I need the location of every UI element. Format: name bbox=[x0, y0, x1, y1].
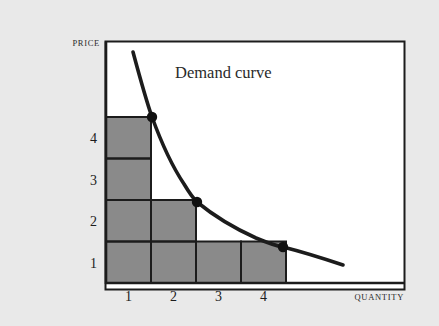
y-tick-label-2: 2 bbox=[90, 214, 97, 229]
x-tick-label-1: 1 bbox=[125, 289, 132, 304]
bar-column-3 bbox=[196, 242, 241, 284]
point-2-marker bbox=[192, 197, 202, 207]
y-tick-label-4: 4 bbox=[90, 131, 97, 146]
y-tick-label-3: 3 bbox=[90, 173, 97, 188]
chart-canvas: 4 3 2 1 1 2 3 4 PRICE QUANTITY Demand cu… bbox=[0, 0, 439, 326]
y-axis-title: PRICE bbox=[72, 38, 100, 48]
y-tick-label-1: 1 bbox=[90, 256, 97, 271]
x-tick-label-2: 2 bbox=[170, 289, 177, 304]
demand-curve-label: Demand curve bbox=[175, 63, 272, 82]
point-3-marker bbox=[278, 242, 288, 252]
point-1-marker bbox=[147, 112, 157, 122]
demand-curve-figure: 4 3 2 1 1 2 3 4 PRICE QUANTITY Demand cu… bbox=[0, 0, 439, 326]
x-axis-title: QUANTITY bbox=[354, 292, 404, 302]
x-tick-label-3: 3 bbox=[215, 289, 222, 304]
x-tick-label-4: 4 bbox=[260, 289, 267, 304]
